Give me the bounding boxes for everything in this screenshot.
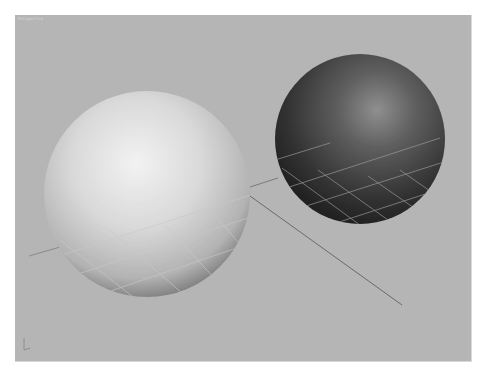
dark-sphere[interactable] [275, 54, 450, 226]
axis-gizmo [24, 338, 30, 350]
light-sphere[interactable] [40, 91, 270, 310]
scene-canvas[interactable] [0, 0, 485, 371]
